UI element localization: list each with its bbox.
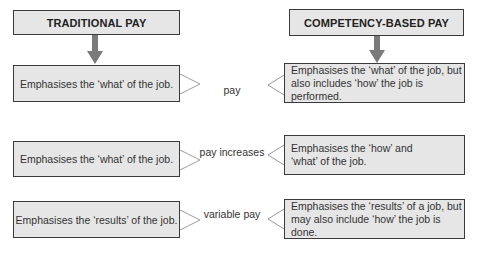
arrow-down-icon [87, 35, 103, 65]
traditional-variable-box: Emphasises the ‘results’ of the job. [13, 201, 180, 238]
traditional-pay-text: Emphasises the ‘what’ of the job. [20, 78, 173, 90]
traditional-variable-text: Emphasises the ‘results’ of the job. [16, 214, 178, 226]
competency-pay-box: Emphasises the ‘what’ of the job, but al… [284, 63, 465, 103]
traditional-pay-header: TRADITIONAL PAY [13, 10, 180, 35]
competency-pay-text: Emphasises the ‘what’ of the job, but al… [291, 64, 464, 103]
traditional-pay-box: Emphasises the ‘what’ of the job. [13, 65, 180, 102]
competency-increases-text: Emphasises the ‘how’ and ‘what’ of the j… [291, 142, 431, 168]
traditional-increases-box: Emphasises the ‘what’ of the job. [13, 141, 180, 177]
competency-variable-text: Emphasises the ‘results’ of a job, but m… [291, 200, 464, 239]
row-label-variable-pay: variable pay [197, 208, 267, 221]
competency-variable-box: Emphasises the ‘results’ of a job, but m… [284, 199, 465, 239]
arrow-down-icon [369, 36, 385, 64]
row-label-pay: pay [197, 84, 267, 97]
competency-pay-header: COMPETENCY-BASED PAY [289, 9, 464, 36]
competency-pay-title: COMPETENCY-BASED PAY [304, 17, 449, 29]
traditional-increases-text: Emphasises the ‘what’ of the job. [20, 153, 173, 165]
row-label-pay-increases: pay increases [197, 146, 267, 159]
competency-increases-box: Emphasises the ‘how’ and ‘what’ of the j… [284, 135, 465, 175]
traditional-pay-title: TRADITIONAL PAY [47, 17, 147, 29]
